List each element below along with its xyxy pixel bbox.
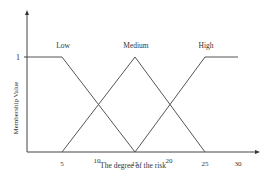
label-medium: Medium bbox=[123, 41, 149, 50]
x-tick-5: 5 bbox=[60, 160, 64, 168]
series-low bbox=[27, 57, 135, 152]
x-tick-25: 25 bbox=[202, 160, 210, 168]
label-high: High bbox=[199, 41, 214, 50]
x-tick-20: 20 bbox=[166, 157, 174, 165]
y-axis-label: Membership Value bbox=[12, 82, 20, 135]
membership-function-chart: 1 Membership Value Low Medium High 5 10 … bbox=[0, 0, 273, 179]
x-axis-arrow-icon bbox=[255, 150, 260, 154]
label-low: Low bbox=[56, 41, 70, 50]
y-axis-arrow-icon bbox=[25, 10, 29, 15]
y-tick-label-1: 1 bbox=[16, 53, 20, 62]
x-axis-label: The degree of the risk bbox=[100, 161, 166, 170]
series-medium bbox=[62, 57, 205, 152]
series-high bbox=[135, 57, 238, 152]
x-tick-30: 30 bbox=[235, 160, 243, 168]
